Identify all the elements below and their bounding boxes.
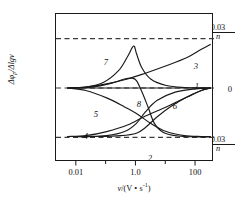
y-axis-title-prefix: Δφ <box>7 75 16 85</box>
x-tick-labels: 0.011.0100 <box>55 168 213 180</box>
curve-label-5: 5 <box>94 109 98 119</box>
y-axis-title: Δφp/Δlgv <box>7 33 18 105</box>
y-axis-title-variable: v <box>7 54 16 58</box>
x-axis-title: v/(V • s-1) <box>55 182 213 193</box>
curve-label-6: 6 <box>173 101 177 111</box>
x-tick-label-1.0: 1.0 <box>130 168 140 177</box>
curve-label-3: 3 <box>194 61 198 71</box>
figure-container: 0.03 n 0 0.03 n Δφp/Δlgv 0.011.0100 v/(V… <box>0 0 235 212</box>
x-tick-marks <box>55 161 213 168</box>
plot-svg <box>56 14 214 162</box>
curve-5 <box>68 88 210 137</box>
curve-3 <box>68 44 210 88</box>
x-tick-label-0.01: 0.01 <box>68 168 83 177</box>
curve-4 <box>68 88 210 137</box>
y-axis-title-suffix: /Δlg <box>7 58 16 72</box>
curve-label-1: 1 <box>195 81 199 91</box>
curve-label-8: 8 <box>137 99 141 109</box>
curve-6 <box>68 88 210 137</box>
curves-group <box>68 44 210 136</box>
curve-label-4: 4 <box>84 131 88 141</box>
x-axis-title-unit-open: /(V • s <box>121 184 142 193</box>
plot-area <box>55 13 213 161</box>
y-tick-label-zero: 0 <box>228 84 232 94</box>
curve-2 <box>68 88 210 137</box>
x-tick-label-100: 100 <box>189 168 202 177</box>
y-axis-title-subscript: p <box>11 72 17 75</box>
curve-label-2: 2 <box>148 153 152 163</box>
curve-label-7: 7 <box>104 57 108 67</box>
curve-7 <box>68 46 210 88</box>
x-axis-title-unit-close: ) <box>148 184 151 193</box>
